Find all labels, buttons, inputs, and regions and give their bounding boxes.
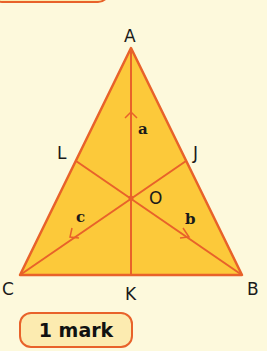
vector-label-b: b <box>185 210 196 228</box>
vertex-label-a: A <box>124 26 136 46</box>
centroid-point <box>129 196 134 201</box>
midpoint-label-l: L <box>57 143 67 163</box>
midpoint-label-k: K <box>125 284 137 304</box>
vector-label-a: a <box>138 120 148 138</box>
vertex-label-b: B <box>247 279 259 299</box>
centroid-label-o: O <box>149 188 162 208</box>
triangle-diagram: A B C K L J O a b c <box>0 0 267 351</box>
vertex-label-c: C <box>2 279 14 299</box>
mark-badge: 1 mark <box>19 312 133 348</box>
midpoint-label-j: J <box>192 143 198 163</box>
mark-badge-label: 1 mark <box>39 319 113 341</box>
vector-label-c: c <box>76 208 85 226</box>
